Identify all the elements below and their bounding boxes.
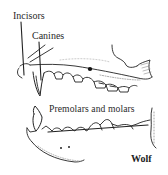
upper-jaw (18, 45, 153, 96)
skull-illustration (0, 0, 168, 175)
incisors-leader-line (21, 22, 24, 75)
canines-label: Canines (32, 31, 64, 41)
canines-leader-lines (28, 42, 53, 80)
premolars-molars-label: Premolars and molars (49, 104, 135, 114)
diagram-title: Wolf (131, 154, 152, 164)
wolf-teeth-diagram: Incisors Canines Premolars and molars Wo… (0, 0, 168, 175)
incisors-label: Incisors (13, 11, 45, 21)
